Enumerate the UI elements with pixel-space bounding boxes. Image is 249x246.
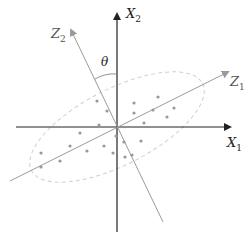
data-point [130,153,133,156]
data-point [78,131,81,134]
data-point [105,109,108,112]
data-point [139,139,142,142]
data-point [151,108,154,111]
z2-axis-label: Z2 [51,27,66,44]
data-point [97,123,100,126]
data-point [114,134,117,137]
x1-axis-label: X1 [227,136,242,153]
data-point [132,101,135,104]
data-point [95,99,98,102]
data-point [172,106,175,109]
data-point [122,140,125,143]
data-point [165,115,168,118]
data-point [68,144,71,147]
data-point [102,144,105,147]
data-point [39,165,42,168]
data-point [39,151,42,154]
data-point [58,159,61,162]
pca-rotation-diagram: X2 X1 Z2 Z1 θ [0,0,249,246]
data-point [111,151,114,154]
data-point [85,149,88,152]
data-point [123,155,126,158]
x2-axis-label: X2 [126,7,141,24]
data-point [156,95,159,98]
data-point [132,111,135,114]
theta-label: θ [101,56,108,68]
diagram-canvas [0,0,249,246]
z1-axis-label: Z1 [230,75,245,92]
theta-arc [95,74,117,79]
data-point [142,121,145,124]
